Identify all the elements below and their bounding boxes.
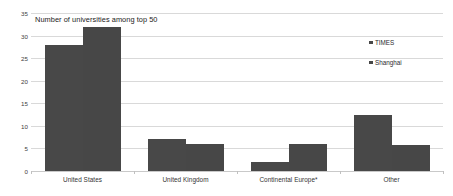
plot-area [31,13,443,171]
bar [354,115,392,171]
bar [289,144,327,171]
x-axis-tick [443,171,444,174]
y-axis-tick-label: 30 [6,32,28,39]
y-axis-tick-label: 0 [6,168,28,175]
legend-item[interactable]: Shanghai [369,59,402,66]
bar-group [237,13,340,171]
x-axis-tick [31,171,32,174]
legend-swatch-icon [369,61,373,65]
x-axis-labels: United StatesUnited KingdomContinental E… [31,176,443,183]
chart-title: Number of universities among top 50 [35,15,158,24]
y-axis-tick-label: 15 [6,100,28,107]
bar-group [31,13,134,171]
x-axis-tick [237,171,238,174]
legend-label: Shanghai [375,59,402,66]
y-axis-tick-label: 20 [6,77,28,84]
y-axis-tick-label: 10 [6,122,28,129]
bar [83,27,121,171]
x-axis-tick-label: United States [31,176,134,183]
y-axis-tick-label: 25 [6,55,28,62]
legend-swatch-icon [369,41,373,45]
bar-groups [31,13,443,171]
bar-group [340,13,443,171]
x-axis-tick [340,171,341,174]
bar-group [134,13,237,171]
bar [392,145,430,171]
chart-legend: TIMESShanghai [369,39,402,79]
x-axis-tick [134,171,135,174]
bar [186,144,224,171]
x-axis-tick-label: United Kingdom [134,176,237,183]
y-axis-tick-label: 35 [6,10,28,17]
bar [251,162,289,171]
bar [45,45,83,171]
x-axis-tick-label: Continental Europe* [237,176,340,183]
bar [148,139,186,171]
bar-chart: 05101520253035 United StatesUnited Kingd… [0,0,453,196]
legend-item[interactable]: TIMES [369,39,402,46]
legend-label: TIMES [375,39,394,46]
y-axis-tick-label: 5 [6,145,28,152]
x-axis-tick-label: Other [340,176,443,183]
